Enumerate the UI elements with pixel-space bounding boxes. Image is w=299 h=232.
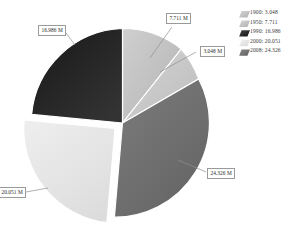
legend-item-1900[interactable]: 1900: 3.048: [238, 8, 299, 18]
legend-item-1950[interactable]: 1950: 7.711: [238, 18, 299, 28]
legend-swatch-1990: [238, 28, 247, 35]
legend-label-2000: 2000: 20.051: [250, 39, 281, 45]
pie-chart-figure: 1900: 3.048 1950: 7.711 1990: 16.986 200…: [0, 0, 299, 232]
pie-slice-2000: [24, 120, 115, 223]
legend-label-2008: 2008: 24.326: [250, 48, 281, 54]
leader-line-2000: [26, 188, 48, 192]
chart-legend: 1900: 3.048 1950: 7.711 1990: 16.986 200…: [238, 8, 299, 56]
leader-line-1990: [66, 33, 75, 45]
legend-swatch-2000: [238, 38, 247, 45]
data-label-1950: 7.711 M: [166, 13, 191, 24]
legend-label-1900: 1900: 3.048: [250, 10, 278, 16]
data-label-1900: 3.048 M: [200, 46, 225, 57]
data-label-1990: 16.986 M: [38, 25, 66, 36]
legend-label-1950: 1950: 7.711: [250, 20, 278, 26]
pie-slice-1990: [32, 29, 123, 124]
legend-item-1990[interactable]: 1990: 16.986: [238, 27, 299, 37]
legend-label-1990: 1990: 16.986: [250, 29, 281, 35]
legend-item-2000[interactable]: 2000: 20.051: [238, 37, 299, 47]
legend-swatch-2008: [238, 48, 247, 55]
legend-swatch-1900: [238, 9, 247, 16]
legend-swatch-1950: [238, 19, 247, 26]
data-label-2000: 20.051 M: [0, 187, 26, 198]
legend-item-2008[interactable]: 2008: 24.326: [238, 46, 299, 56]
data-label-2008: 24.326 M: [207, 168, 235, 179]
